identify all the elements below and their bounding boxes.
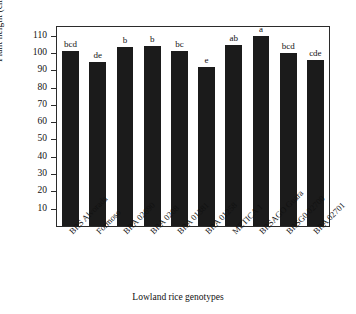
bar-significance-letter: bc xyxy=(175,39,184,49)
bar-significance-letter: de xyxy=(94,50,103,60)
y-tick-90: 90 xyxy=(0,70,56,71)
bar-slot: b xyxy=(117,27,134,226)
bar-slot: ab xyxy=(225,27,242,226)
bar xyxy=(144,46,161,226)
bar-significance-letter: bcd xyxy=(282,41,295,51)
x-axis-title: Lowland rice genotypes xyxy=(0,292,356,302)
y-tick-label: 100 xyxy=(33,46,47,59)
y-tick-80: 80 xyxy=(0,88,56,89)
bar-significance-letter: b xyxy=(150,34,155,44)
bar-significance-letter: ab xyxy=(230,33,239,43)
bar xyxy=(171,51,188,226)
y-axis-title: Plant height (cm) xyxy=(0,0,4,88)
y-tick-label: 90 xyxy=(38,63,48,76)
y-tick-50: 50 xyxy=(0,139,56,140)
bar-slot: bc xyxy=(171,27,188,226)
bar xyxy=(62,51,79,226)
y-tick-70: 70 xyxy=(0,105,56,106)
bar xyxy=(225,45,242,226)
y-tick-label: 110 xyxy=(33,29,47,42)
y-tick-110: 110 xyxy=(0,36,56,37)
bar-significance-letter: a xyxy=(259,24,263,34)
y-tick-10: 10 xyxy=(0,209,56,210)
bar-chart-figure: Plant height (cm) 1020304050607080901001… xyxy=(0,0,356,314)
y-tick-100: 100 xyxy=(0,53,56,54)
y-tick-label: 40 xyxy=(38,150,48,163)
y-tick-60: 60 xyxy=(0,122,56,123)
y-tick-label: 10 xyxy=(38,202,48,215)
bar-significance-letter: bcd xyxy=(64,39,77,49)
bar-significance-letter: b xyxy=(123,35,128,45)
y-tick-label: 80 xyxy=(38,81,48,94)
bar xyxy=(253,36,270,226)
y-tick-label: 60 xyxy=(38,115,48,128)
y-tick-label: 20 xyxy=(38,184,48,197)
y-tick-label: 30 xyxy=(38,167,48,180)
y-tick-20: 20 xyxy=(0,191,56,192)
bar-slot: bcd xyxy=(62,27,79,226)
bar xyxy=(117,47,134,226)
y-tick-label: 70 xyxy=(38,98,48,111)
bar-slot: b xyxy=(144,27,161,226)
y-tick-label: 50 xyxy=(38,132,48,145)
bar-slot: e xyxy=(198,27,215,226)
bar-significance-letter: cde xyxy=(309,48,322,58)
y-tick-40: 40 xyxy=(0,157,56,158)
bar-slot: a xyxy=(253,27,270,226)
y-tick-30: 30 xyxy=(0,174,56,175)
bar-significance-letter: e xyxy=(205,55,209,65)
